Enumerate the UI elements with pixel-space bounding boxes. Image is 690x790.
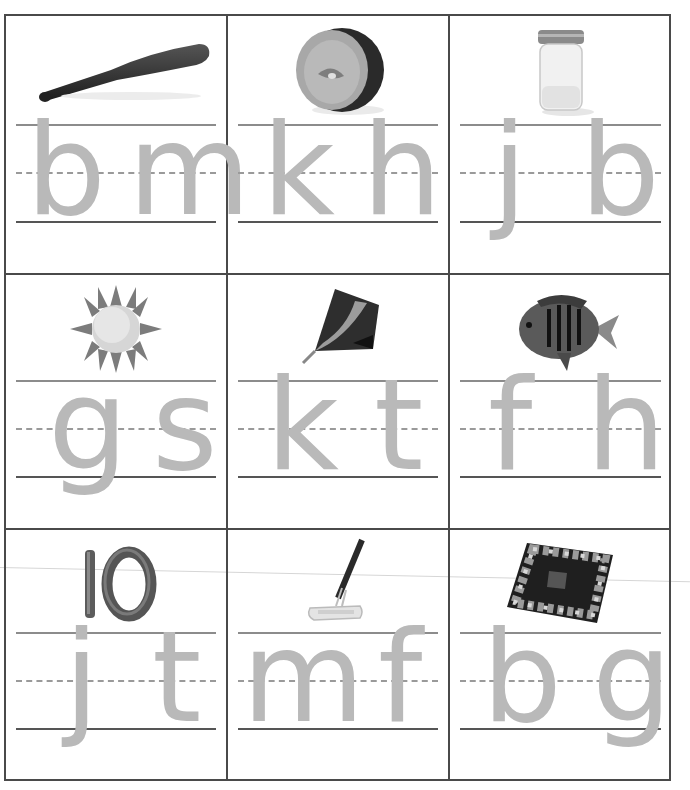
letter-choice[interactable]: j xyxy=(64,615,99,741)
card-ten[interactable]: j t xyxy=(6,530,226,781)
letter-choice[interactable]: m xyxy=(242,615,365,741)
letter-choice[interactable]: s xyxy=(152,363,218,489)
letter-choice[interactable]: g xyxy=(592,615,672,741)
card-sun[interactable]: g s xyxy=(6,275,226,528)
letter-choice[interactable]: t xyxy=(374,363,423,489)
letter-choice[interactable]: h xyxy=(586,363,666,489)
card-mop[interactable]: m f xyxy=(228,530,448,781)
card-kite[interactable]: k t xyxy=(228,275,448,528)
card-fish[interactable]: f h xyxy=(450,275,671,528)
letter-choice[interactable]: b xyxy=(26,108,106,234)
letter-choice[interactable]: k xyxy=(262,108,335,234)
letter-choice[interactable]: g xyxy=(48,363,128,489)
letter-choice[interactable]: h xyxy=(362,108,442,234)
card-bat[interactable]: b m xyxy=(6,16,226,273)
letter-choice[interactable]: b xyxy=(580,108,660,234)
letter-choice[interactable]: k xyxy=(266,363,339,489)
card-jar[interactable]: j b xyxy=(450,16,671,273)
letter-choice[interactable]: b xyxy=(482,615,562,741)
card-kiwi[interactable]: k h xyxy=(228,16,448,273)
worksheet-grid: b m k h xyxy=(4,14,671,781)
letter-choice[interactable]: t xyxy=(152,615,201,741)
card-game-board[interactable]: b g xyxy=(450,530,671,781)
letter-choice[interactable]: f xyxy=(488,363,532,489)
letter-choice[interactable]: f xyxy=(378,615,422,741)
letter-choice[interactable]: j xyxy=(492,108,527,234)
